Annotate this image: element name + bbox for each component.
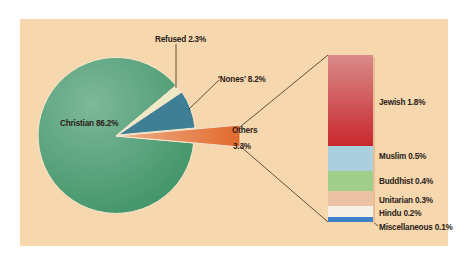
others-breakdown-bar [328,55,375,223]
label-refused: Refused 2.3% [155,33,206,44]
others-lower-leader [240,146,328,222]
segment-unitarian [328,191,373,206]
nones-leader [188,80,219,110]
segment-muslim [328,146,373,171]
label-christian: Christian 86.2% [60,117,118,128]
label-buddhist: Buddhist 0.4% [379,175,433,186]
label-hindu: Hindu 0.2% [379,207,421,218]
others-upper-leader [240,55,328,127]
label-jewish: Jewish 1.8% [379,96,425,107]
label-miscellaneous: Miscellaneous 0.1% [379,221,453,232]
bar-shadow [373,57,375,223]
label-nones: 'Nones' 8.2% [218,73,266,84]
segment-hindu [328,206,373,217]
label-unitarian: Unitarian 0.3% [379,194,433,205]
segment-miscellaneous [328,217,373,222]
label-others-value: 3.3% [233,140,251,151]
pie [38,57,240,213]
segment-jewish [328,55,373,146]
label-others: Others [232,124,257,135]
label-muslim: Muslim 0.5% [379,150,426,161]
segment-buddhist [328,171,373,191]
